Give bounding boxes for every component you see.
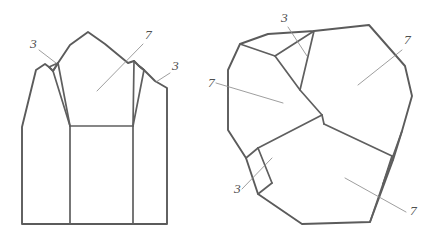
reference-numeral-right-7-bottom: 7 — [410, 203, 418, 218]
right-view-edge-4 — [258, 115, 322, 148]
right-view-edge-3 — [322, 115, 324, 124]
reference-numeral-right-7-top-right: 7 — [404, 32, 412, 47]
right-view-edge-7 — [258, 183, 272, 194]
leader-line-right-7-top-right — [358, 50, 402, 85]
left-view-edge-9 — [134, 61, 144, 70]
left-view-group: 3 7 3 — [22, 27, 179, 224]
reference-numeral-right-3-top: 3 — [280, 10, 288, 25]
reference-numeral-right-7-left: 7 — [208, 75, 216, 90]
figure-root: 3 7 3 3 7 — [0, 0, 423, 246]
technical-drawing: 3 7 3 3 7 — [0, 0, 423, 246]
reference-numeral-left-7: 7 — [145, 27, 153, 42]
right-view-edge-5 — [246, 148, 258, 158]
leader-line-left-7 — [97, 44, 143, 91]
reference-numeral-left-3-top: 3 — [29, 36, 37, 51]
right-view-group: 3 7 7 3 7 — [208, 10, 418, 224]
right-view-edge-11 — [370, 184, 383, 222]
leader-line-right-7-left — [216, 83, 283, 103]
leader-line-left-3-top — [39, 50, 56, 63]
reference-numeral-right-3-bottom: 3 — [233, 181, 241, 196]
reference-numeral-left-3-right: 3 — [171, 58, 179, 73]
right-view-outline — [228, 25, 412, 224]
left-view-outline — [22, 32, 167, 224]
leader-line-left-3-right — [156, 73, 170, 82]
right-view-edge-2 — [300, 31, 314, 90]
right-view-edge-0 — [240, 44, 322, 115]
right-view-edge-12 — [383, 131, 402, 184]
right-view-edge-8 — [324, 124, 392, 156]
left-view-edge-10 — [133, 61, 134, 126]
left-view-edge-7 — [133, 70, 144, 126]
